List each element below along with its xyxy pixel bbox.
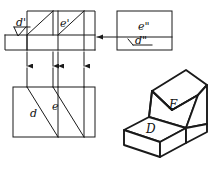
front-view-internal-lines xyxy=(27,11,84,50)
isometric-solid xyxy=(124,70,207,157)
pictorial-face-label-d: D xyxy=(145,122,156,136)
front-view-label-e: e' xyxy=(60,17,70,30)
side-view-label-e: e" xyxy=(138,20,150,33)
side-view-label-d: d" xyxy=(135,34,147,47)
front-view-label-d: d' xyxy=(16,16,26,29)
top-view-label-d: d xyxy=(30,107,37,120)
top-view-projection-extensions xyxy=(27,68,84,87)
technical-drawing-canvas: d' e' e" d" d e E D xyxy=(0,0,215,173)
drawing-svg: d' e' e" d" d e E D xyxy=(0,0,215,173)
top-view-label-e: e xyxy=(52,100,59,113)
vertical-projection-arrows xyxy=(27,52,84,66)
pictorial-face-label-e: E xyxy=(168,98,178,112)
